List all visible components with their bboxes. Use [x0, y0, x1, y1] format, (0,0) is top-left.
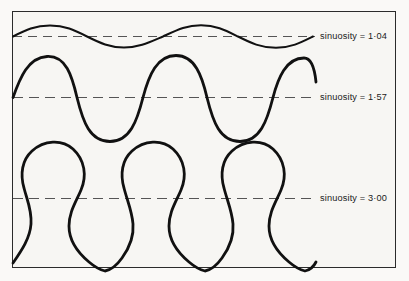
- figure-caption-strip: [0, 270, 409, 281]
- figure-root: sinuosity = 1·04 sinuosity = 1·57 sinuos…: [0, 0, 409, 281]
- figure-border-frame: [12, 11, 396, 268]
- sinuosity-label-3: sinuosity = 3·00: [320, 194, 387, 203]
- sinuosity-label-2: sinuosity = 1·57: [320, 93, 387, 102]
- sinuosity-label-1: sinuosity = 1·04: [320, 32, 387, 41]
